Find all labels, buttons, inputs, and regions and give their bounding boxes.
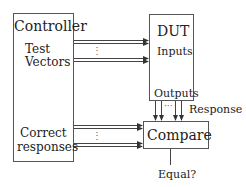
correct-responses-ellipsis: ⋮ — [92, 131, 102, 141]
dut-inputs-label: Inputs — [157, 46, 193, 57]
dut-title: DUT — [157, 24, 189, 38]
test-vectors-label-line1: Test — [25, 43, 50, 55]
compare-title: Compare — [147, 128, 212, 142]
controller-title: Controller — [14, 19, 87, 33]
test-vectors-label-line2: Vectors — [25, 56, 70, 68]
outputs-ellipsis: ··· — [164, 102, 173, 111]
response-label: Response — [189, 104, 242, 115]
dut-outputs-label: Outputs — [154, 88, 199, 99]
equal-result-label: Equal? — [158, 169, 196, 180]
test-setup-diagram: Controller Test Vectors Correct response… — [0, 0, 246, 187]
test-vectors-ellipsis: ⋮ — [92, 46, 102, 56]
correct-responses-label-line2: responses — [17, 141, 78, 153]
correct-responses-label-line1: Correct — [20, 127, 67, 139]
